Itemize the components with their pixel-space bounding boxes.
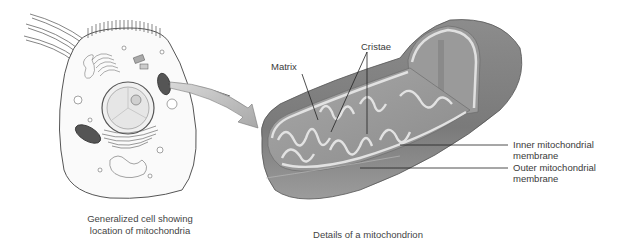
label-outer-membrane-line1: Outer mitochondrial [513,162,596,173]
label-inner-membrane-line1: Inner mitochondrial [513,139,594,150]
label-inner-membrane: Inner mitochondrial membrane [513,139,594,161]
caption-cell: Generalized cell showing location of mit… [60,213,220,237]
label-outer-membrane: Outer mitochondrial membrane [513,162,596,184]
mitochondrion-illustration [261,20,521,199]
caption-mitochondrion: Details of a mitochondrion [288,229,448,241]
caption-cell-line1: Generalized cell showing [60,213,220,225]
label-matrix: Matrix [271,61,297,72]
label-outer-membrane-line2: membrane [513,173,596,184]
label-inner-membrane-line2: membrane [513,150,594,161]
cell-illustration [24,14,230,198]
caption-cell-line2: location of mitochondria [60,225,220,237]
diagram-artwork [0,0,627,248]
nucleolus [131,95,141,105]
label-cristae: Cristae [361,41,391,52]
